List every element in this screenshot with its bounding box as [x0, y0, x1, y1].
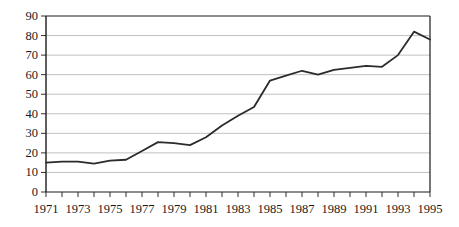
line-chart: 0102030405060708090 19711973197519771979…: [0, 0, 459, 227]
y-axis-tick-label: 60: [26, 69, 39, 82]
y-axis-tick-label: 90: [26, 10, 39, 23]
y-axis-tick-label: 10: [26, 166, 39, 179]
x-axis-ticks: [41, 16, 430, 197]
y-axis-tick-label: 40: [26, 108, 39, 121]
x-axis-tick-label: 1995: [410, 203, 450, 216]
data-series-line: [46, 32, 430, 164]
y-axis-tick-label: 50: [26, 88, 39, 101]
y-axis-tick-label: 80: [26, 30, 39, 43]
chart-canvas: [0, 0, 459, 227]
y-axis-tick-label: 70: [26, 49, 39, 62]
y-axis-tick-label: 30: [26, 127, 39, 140]
y-axis-tick-label: 0: [32, 186, 38, 199]
gridlines: [46, 16, 430, 172]
y-axis-tick-label: 20: [26, 147, 39, 160]
